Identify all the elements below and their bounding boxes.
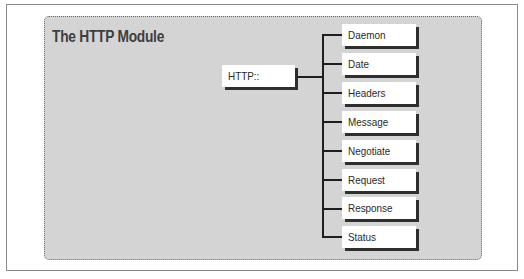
- child-node-label: Response: [348, 197, 393, 219]
- branch-line-headers: [322, 92, 342, 94]
- child-node-label: Daemon: [348, 24, 385, 46]
- child-node-label: Status: [348, 226, 376, 248]
- child-node-request: Request: [342, 169, 416, 191]
- root-connector-line: [298, 76, 324, 78]
- branch-line-request: [322, 179, 342, 181]
- child-node-negotiate: Negotiate: [342, 140, 416, 162]
- module-panel: [44, 16, 482, 260]
- branch-line-daemon: [322, 34, 342, 36]
- branch-line-negotiate: [322, 150, 342, 152]
- child-node-daemon: Daemon: [342, 24, 416, 46]
- diagram-title: The HTTP Module: [52, 28, 164, 46]
- root-node-label: HTTP::: [228, 65, 259, 87]
- child-node-date: Date: [342, 53, 416, 75]
- child-node-label: Message: [348, 111, 388, 133]
- branch-line-status: [322, 236, 342, 238]
- branch-line-message: [322, 121, 342, 123]
- branch-line-response: [322, 208, 342, 210]
- child-node-label: Headers: [348, 82, 385, 104]
- child-node-response: Response: [342, 197, 416, 219]
- child-node-label: Negotiate: [348, 140, 390, 162]
- child-node-headers: Headers: [342, 82, 416, 104]
- branch-line-date: [322, 63, 342, 65]
- child-node-label: Request: [348, 169, 385, 191]
- child-node-label: Date: [348, 53, 369, 75]
- root-node-http: HTTP::: [222, 65, 295, 87]
- child-node-message: Message: [342, 111, 416, 133]
- child-node-status: Status: [342, 226, 416, 248]
